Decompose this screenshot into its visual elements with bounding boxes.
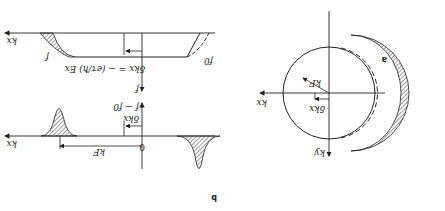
panel-a-label: a [382,55,387,63]
top-shift-label: δkx [123,114,139,123]
panel-a-axis-y-label: ky [314,148,325,157]
top-axis-y-label: f − f0 [113,102,139,111]
panel-a-axis-x-label: kx [256,98,267,107]
panel-b-bottom-plot [5,33,215,91]
bottom-curve-label-f: f [46,52,49,61]
panel-a-shift-label: δkx [309,104,325,113]
panel-b-label: b [211,193,217,201]
bottom-axis-y-label: f [136,84,139,93]
bottom-axis-x-label: kx [6,36,17,45]
top-axis-x-label: kx [6,139,17,148]
panel-a-radius-label: kF [309,78,321,87]
top-fermi-label: kF [93,147,105,156]
bottom-shift-label: δkx = − (eτ/ħ) Ex [65,64,145,73]
figure-drawing [0,0,445,211]
top-origin-label: 0 [139,142,145,151]
panel-a [260,11,409,156]
figure-stage: a kx ky kF δkx b kx f − f0 kF 0 δkx kx f… [0,0,445,211]
fermi-sphere-figure: a kx ky kF δkx b kx f − f0 kF 0 δkx kx f… [0,0,445,211]
panel-b-top-plot [5,103,220,169]
bottom-curve-label-f0: f0 [204,56,213,65]
